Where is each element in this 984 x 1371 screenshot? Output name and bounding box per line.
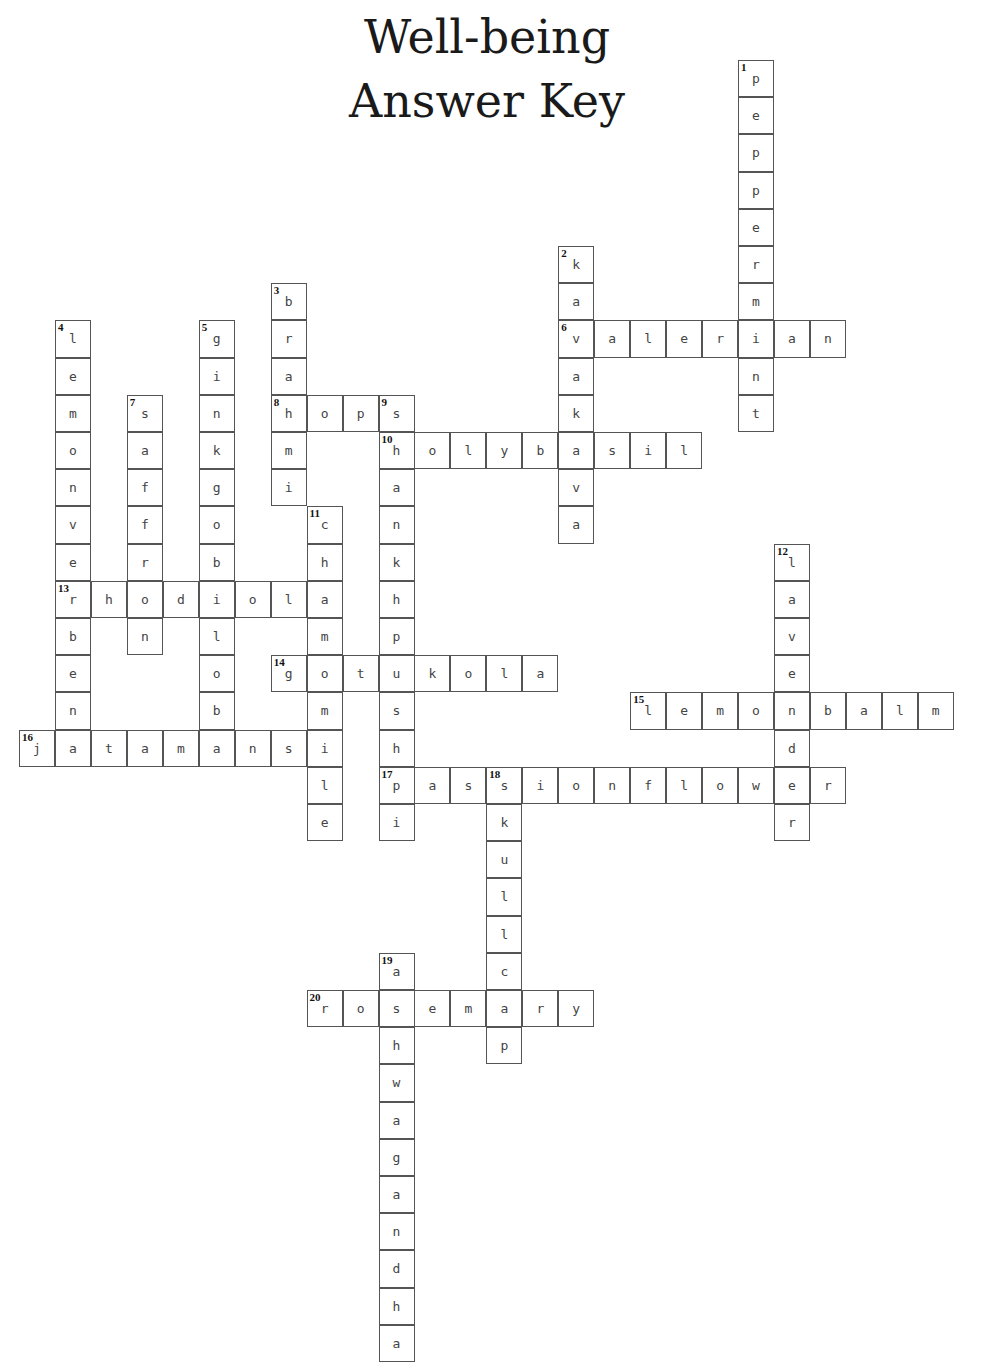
cell-letter: o <box>321 666 329 681</box>
cell-letter: f <box>141 517 149 532</box>
crossword-cell: a <box>774 320 810 357</box>
crossword-cell: r <box>127 544 163 581</box>
crossword-cell: s9 <box>379 395 415 432</box>
crossword-cell: n <box>199 395 235 432</box>
cell-letter: h <box>393 741 401 756</box>
cell-letter: p <box>393 629 401 644</box>
cell-letter: h <box>321 555 329 570</box>
crossword-cell: i <box>379 804 415 841</box>
cell-letter: r <box>69 592 77 607</box>
cell-letter: m <box>752 294 760 309</box>
crossword-cell: k <box>199 432 235 469</box>
crossword-cell: l <box>630 320 666 357</box>
cell-letter: l <box>896 703 904 718</box>
cell-letter: l <box>69 331 77 346</box>
cell-letter: o <box>141 592 149 607</box>
crossword-cell: e <box>414 990 450 1027</box>
cell-letter: s <box>393 1001 401 1016</box>
cell-letter: a <box>69 741 77 756</box>
cell-letter: g <box>213 331 221 346</box>
crossword-cell: o <box>199 655 235 692</box>
cell-letter: l <box>788 555 796 570</box>
cell-letter: e <box>69 555 77 570</box>
clue-number: 16 <box>22 732 33 743</box>
cell-letter: p <box>752 145 760 160</box>
cell-letter: d <box>177 592 185 607</box>
cell-letter: o <box>752 703 760 718</box>
crossword-cell: n <box>55 469 91 506</box>
crossword-cell: n <box>810 320 846 357</box>
cell-letter: b <box>285 294 293 309</box>
cell-letter: o <box>357 1001 365 1016</box>
crossword-cell: g <box>379 1139 415 1176</box>
crossword-cell: e <box>738 97 774 134</box>
cell-letter: n <box>213 406 221 421</box>
clue-number: 18 <box>489 769 500 780</box>
cell-letter: l <box>500 927 508 942</box>
cell-letter: b <box>213 703 221 718</box>
crossword-cell: l <box>486 878 522 915</box>
cell-letter: m <box>464 1001 472 1016</box>
cell-letter: o <box>429 443 437 458</box>
crossword-cell: h8 <box>271 395 307 432</box>
crossword-cell: m <box>702 692 738 729</box>
crossword-cell: v <box>774 618 810 655</box>
crossword-cell: l <box>199 618 235 655</box>
crossword-cell: i <box>522 767 558 804</box>
cell-letter: s <box>285 741 293 756</box>
crossword-cell: m <box>55 395 91 432</box>
crossword-cell: m <box>450 990 486 1027</box>
crossword-cell: m <box>163 730 199 767</box>
crossword-cell: l <box>307 767 343 804</box>
crossword-cell: m <box>918 692 954 729</box>
cell-letter: e <box>788 778 796 793</box>
crossword-cell: o <box>307 655 343 692</box>
cell-letter: o <box>69 443 77 458</box>
crossword-cell: f <box>127 469 163 506</box>
crossword-cell: u <box>486 841 522 878</box>
clue-number: 2 <box>561 248 567 259</box>
cell-letter: b <box>824 703 832 718</box>
cell-letter: r <box>824 778 832 793</box>
cell-letter: h <box>393 443 401 458</box>
clue-number: 13 <box>58 583 69 594</box>
cell-letter: l <box>213 629 221 644</box>
cell-letter: n <box>69 703 77 718</box>
crossword-cell: a <box>522 655 558 692</box>
cell-letter: e <box>69 666 77 681</box>
crossword-cell: l <box>666 767 702 804</box>
crossword-cell: j16 <box>19 730 55 767</box>
cell-letter: k <box>572 406 580 421</box>
crossword-cell: r13 <box>55 581 91 618</box>
cell-letter: i <box>285 480 293 495</box>
cell-letter: r <box>536 1001 544 1016</box>
cell-letter: s <box>393 703 401 718</box>
crossword-cell: g14 <box>271 655 307 692</box>
cell-letter: r <box>285 331 293 346</box>
crossword-cell: a <box>307 581 343 618</box>
crossword-cell: l <box>450 432 486 469</box>
cell-letter: o <box>716 778 724 793</box>
crossword-cell: r <box>774 804 810 841</box>
crossword-cell: s7 <box>127 395 163 432</box>
cell-letter: g <box>393 1150 401 1165</box>
crossword-cell: n <box>594 767 630 804</box>
crossword-cell: n <box>774 692 810 729</box>
crossword-cell: l15 <box>630 692 666 729</box>
cell-letter: l <box>500 889 508 904</box>
cell-letter: k <box>500 815 508 830</box>
crossword-cell: t <box>343 655 379 692</box>
cell-letter: m <box>177 741 185 756</box>
crossword-cell: a <box>846 692 882 729</box>
crossword-cell: l <box>486 916 522 953</box>
cell-letter: g <box>213 480 221 495</box>
crossword-cell: a <box>199 730 235 767</box>
cell-letter: a <box>213 741 221 756</box>
crossword-cell: s <box>450 767 486 804</box>
crossword-cell: e <box>55 655 91 692</box>
crossword-cell: o <box>55 432 91 469</box>
crossword-grid: p1eppermintk2av6akavab3rah8mil4emonver13… <box>0 0 984 1371</box>
cell-letter: e <box>321 815 329 830</box>
cell-letter: l <box>285 592 293 607</box>
cell-letter: n <box>393 1224 401 1239</box>
